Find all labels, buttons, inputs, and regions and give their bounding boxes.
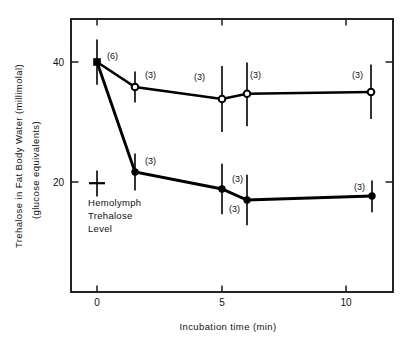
hemolymph-label-line-3: Level — [88, 223, 112, 234]
x-tick-label-5: 5 — [219, 297, 225, 308]
n-label-open-3: (3) — [250, 70, 261, 80]
n-label-open-1: (3) — [145, 70, 156, 80]
marker-filled-circle-1 — [131, 168, 138, 175]
marker-filled-circle-4 — [368, 192, 375, 199]
y-tick-label-20: 20 — [53, 177, 65, 188]
marker-open-circle-3 — [244, 91, 251, 98]
n-label-open-2: (3) — [194, 72, 205, 82]
n-label-filled-3: (3) — [229, 204, 240, 214]
trehalose-incubation-chart: 0 5 10 40 20 Incubation time (min) Treha… — [0, 0, 410, 348]
marker-filled-circle-3 — [243, 196, 250, 203]
y-axis-label-line2: (glucose equivalents) — [30, 121, 41, 219]
marker-open-circle-4 — [368, 89, 375, 96]
marker-open-circle-1 — [132, 84, 139, 91]
marker-open-circle-2 — [219, 96, 226, 103]
n-label-filled-4: (3) — [354, 182, 365, 192]
hemolymph-label-line-2: Trehalose — [88, 210, 133, 221]
x-tick-label-0: 0 — [94, 297, 100, 308]
y-tick-label-40: 40 — [53, 57, 65, 68]
n-label-filled-2: (3) — [232, 174, 243, 184]
n-label-origin: (6) — [107, 51, 118, 61]
marker-filled-square-origin — [93, 58, 101, 66]
n-label-filled-1: (3) — [145, 156, 156, 166]
hemolymph-label-line-1: Hemolymph — [88, 197, 141, 208]
x-tick-label-10: 10 — [340, 297, 352, 308]
marker-filled-circle-2 — [218, 185, 225, 192]
x-axis-label: Incubation time (min) — [179, 321, 276, 332]
y-axis-label: Trehalose in Fat Body Water (millimolal) — [13, 64, 24, 248]
chart-background — [0, 0, 410, 348]
n-label-open-4: (3) — [352, 70, 363, 80]
